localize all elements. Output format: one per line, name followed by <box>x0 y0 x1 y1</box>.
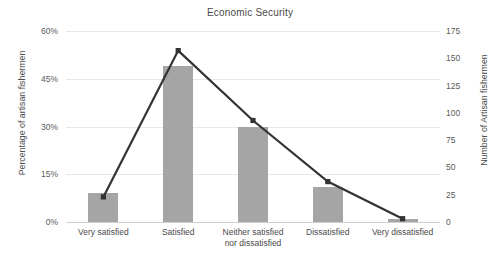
x-axis-tick-line: nor dissatisfied <box>208 238 299 249</box>
right-axis-title: Number of Artisan fishermen <box>479 10 489 210</box>
left-axis-tick-label: 0% <box>2 217 58 227</box>
line-marker <box>400 216 405 221</box>
x-axis-tick-line: Very dissatisfied <box>357 227 448 238</box>
line-marker <box>101 194 106 199</box>
line-marker <box>250 118 255 123</box>
right-axis-tick-label: 0 <box>446 217 472 227</box>
axis-baseline <box>66 222 440 223</box>
x-axis-tick-label: Very dissatisfied <box>357 227 448 238</box>
right-axis-tick-label: 175 <box>446 26 472 36</box>
left-axis-tick-label: 45% <box>2 74 58 84</box>
left-axis-tick-label: 30% <box>2 122 58 132</box>
chart-container: Economic Security Percentage of artisan … <box>0 0 500 274</box>
line-series <box>66 31 440 222</box>
right-axis-tick-label: 100 <box>446 108 472 118</box>
right-axis-tick-label: 150 <box>446 53 472 63</box>
line-marker <box>176 48 181 53</box>
line-marker <box>325 179 330 184</box>
left-axis-tick-label: 15% <box>2 169 58 179</box>
left-axis-tick-label: 60% <box>2 26 58 36</box>
right-axis-tick-label: 25 <box>446 190 472 200</box>
line-markers <box>101 48 405 221</box>
right-axis-tick-label: 50 <box>446 162 472 172</box>
right-axis-tick-label: 75 <box>446 135 472 145</box>
chart-title: Economic Security <box>0 7 500 18</box>
right-axis-tick-label: 125 <box>446 81 472 91</box>
plot-area <box>66 31 440 222</box>
line-path <box>103 51 402 219</box>
